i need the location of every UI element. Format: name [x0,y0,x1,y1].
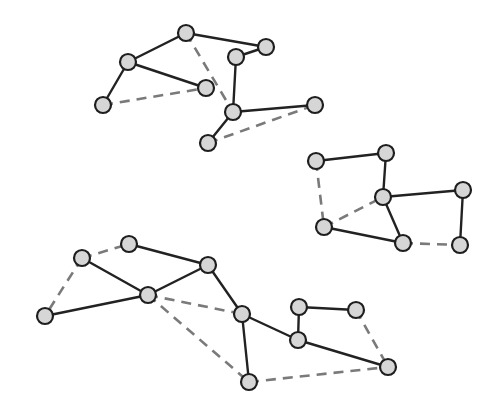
graph-node-c10 [380,359,396,375]
graph-node-a9 [200,135,216,151]
cluster-right-nodes [308,145,471,253]
graph-diagram [0,0,497,415]
solid-edge-c6-c11 [242,314,249,382]
graph-node-a8 [307,97,323,113]
solid-edge-a7-a8 [233,105,315,112]
graph-node-a6 [95,97,111,113]
graph-node-a1 [178,25,194,41]
graph-node-b5 [316,219,332,235]
graph-node-a2 [258,39,274,55]
dashed-edge-a1-a7 [186,33,233,112]
graph-node-c11 [241,374,257,390]
solid-edge-b1-b2 [316,153,386,161]
cluster-bottom-nodes [37,236,396,390]
cluster-top-nodes [95,25,323,151]
graph-node-b4 [455,182,471,198]
graph-node-b7 [452,237,468,253]
solid-edge-c1-c3 [129,244,208,265]
graph-node-c3 [200,257,216,273]
graph-node-c1 [121,236,137,252]
graph-node-a4 [120,54,136,70]
dashed-edge-c4-c6 [148,295,242,314]
solid-edge-a1-a4 [128,33,186,62]
graph-node-c8 [348,302,364,318]
dashed-edge-b5-b3 [324,197,383,227]
graph-node-c6 [234,306,250,322]
graph-node-b6 [395,235,411,251]
graph-node-c2 [74,250,90,266]
solid-edge-a1-a2 [186,33,266,47]
nodes-layer [37,25,471,390]
dashed-edge-c4-c11 [148,295,249,382]
dashed-edge-b1-b5 [316,161,324,227]
solid-edge-b5-b6 [324,227,403,243]
solid-edge-c6-c9 [242,314,298,340]
graph-node-c9 [290,332,306,348]
graph-node-a5 [198,80,214,96]
edges-layer [45,33,463,382]
dashed-edge-c11-c10 [249,367,388,382]
graph-node-b2 [378,145,394,161]
solid-edge-a4-a5 [128,62,206,88]
graph-node-b3 [375,189,391,205]
dashed-edge-a6-a5 [103,88,206,105]
graph-node-c5 [37,308,53,324]
dashed-edge-c2-c5 [45,258,82,316]
solid-edge-b3-b4 [383,190,463,197]
graph-node-c7 [291,299,307,315]
graph-node-c4 [140,287,156,303]
solid-edge-c2-c4 [82,258,148,295]
solid-edge-c4-c3 [148,265,208,295]
graph-node-b1 [308,153,324,169]
solid-edge-c5-c4 [45,295,148,316]
graph-node-a7 [225,104,241,120]
graph-node-a3 [228,49,244,65]
